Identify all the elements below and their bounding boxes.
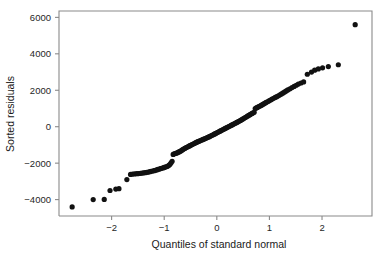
data-point (320, 65, 325, 70)
data-point (353, 22, 358, 27)
y-tick-label: −4000 (24, 194, 51, 205)
y-tick-label: −2000 (24, 158, 51, 169)
data-point (107, 188, 112, 193)
data-point (301, 79, 306, 84)
y-tick-label: 4000 (30, 48, 51, 59)
x-tick-label: 2 (319, 222, 324, 233)
data-point (116, 186, 121, 191)
x-axis-title: Quantiles of standard normal (152, 238, 287, 250)
qq-plot-figure: −2−1012 −4000−20000200040006000 Quantile… (0, 0, 388, 256)
data-point (170, 159, 175, 164)
y-tick-label: 0 (46, 121, 51, 132)
y-tick-label: 6000 (30, 12, 51, 23)
x-tick-label: 0 (214, 222, 219, 233)
data-point (326, 64, 331, 69)
data-point (70, 204, 75, 209)
y-axis-title: Sorted residuals (4, 76, 16, 152)
x-tick-label: −1 (159, 222, 170, 233)
data-point (336, 62, 341, 67)
data-point (124, 177, 129, 182)
x-tick-label: 1 (267, 222, 272, 233)
qq-plot-canvas: −2−1012 −4000−20000200040006000 Quantile… (0, 0, 388, 256)
y-tick-label: 2000 (30, 85, 51, 96)
data-point (102, 197, 107, 202)
x-tick-label: −2 (106, 222, 117, 233)
data-point (91, 197, 96, 202)
figure-background (0, 0, 388, 256)
